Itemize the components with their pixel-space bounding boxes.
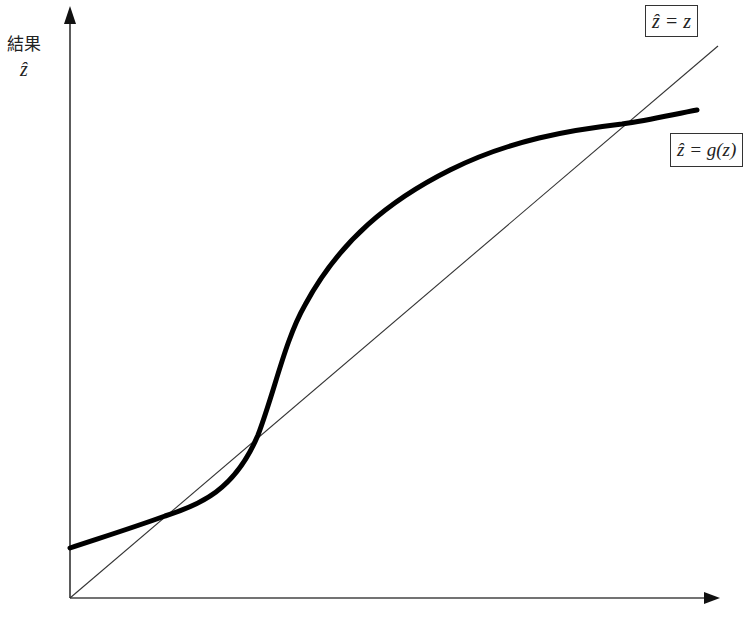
g-curve-label: ẑ = g(z) xyxy=(670,133,743,167)
y-axis-label: 結果 ẑ xyxy=(2,34,46,80)
y-axis-label-word: 結果 xyxy=(7,35,41,54)
g-curve xyxy=(70,110,697,548)
identity-line-label: ẑ = z xyxy=(645,5,698,37)
diagram-canvas xyxy=(0,0,751,621)
y-axis-arrow-icon xyxy=(64,6,76,24)
y-axis-label-variable: ẑ xyxy=(2,58,46,80)
x-axis-arrow-icon xyxy=(704,592,720,604)
